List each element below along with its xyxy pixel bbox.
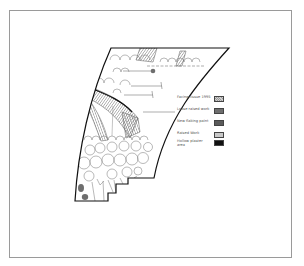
legend-swatch	[214, 140, 224, 146]
legend-swatch	[214, 120, 224, 126]
legend-label: New flaking paint	[177, 119, 211, 123]
loose-raised-spot	[151, 69, 156, 74]
legend-item-raised-work: Raised Work	[177, 131, 229, 139]
legend-label: Loose raised work	[177, 107, 211, 111]
legend-label: Hollow plaster area	[177, 139, 211, 147]
legend-item-hollow-plaster: Hollow plaster area	[177, 139, 229, 151]
legend-item-loose-raised: Loose raised work	[177, 107, 229, 119]
loose-spot-lower-2	[82, 194, 88, 200]
legend-label: Raised Work	[177, 131, 211, 135]
legend-swatch	[214, 132, 224, 138]
legend-swatch-hatched	[214, 96, 224, 102]
facing-tissue-band-right	[122, 112, 140, 138]
loose-spot-lower-1	[78, 184, 84, 192]
legend-item-new-flaking: New flaking paint	[177, 119, 229, 131]
legend: Facing tissue 1995 Loose raised work New…	[177, 95, 229, 151]
legend-label: Facing tissue 1995	[177, 95, 211, 99]
legend-item-facing-tissue: Facing tissue 1995	[177, 95, 229, 107]
fresco-damage-map	[0, 0, 304, 266]
facing-tissue-top-left	[136, 48, 157, 62]
legend-swatch	[214, 108, 224, 114]
crowd-figures	[78, 136, 153, 201]
